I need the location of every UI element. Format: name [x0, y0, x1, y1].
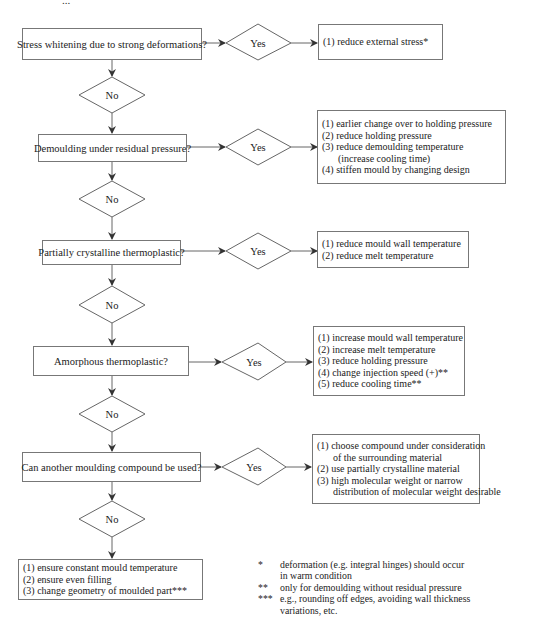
action-item: (1) increase mould wall temperature: [318, 332, 460, 344]
question-text: Stress whitening due to strong deformati…: [17, 39, 207, 50]
decision-yes-5: Yes: [246, 462, 261, 473]
question-text: Demoulding under residual pressure?: [34, 143, 191, 154]
final-action-item: (1) ensure constant mould temperature: [23, 562, 198, 574]
action-item: (1) earlier change over to holding press…: [322, 118, 501, 130]
action-item: (3) high molecular weight or narrow: [317, 475, 475, 487]
decision-no-3: No: [106, 300, 119, 311]
footnote-text: variations, etc.: [280, 605, 337, 616]
action-item-continuation: of the surrounding material: [317, 452, 475, 464]
decision-no-2: No: [106, 194, 119, 205]
action-item: (3) reduce demoulding temperature: [322, 141, 501, 153]
clipped-heading-fragment: ...: [62, 0, 70, 6]
footnote-mark: **: [258, 582, 280, 593]
action-item: (2) increase melt temperature: [318, 344, 460, 356]
question-another-compound: Can another moulding compound be used?: [22, 452, 201, 482]
footnote-text: in warm condition: [280, 570, 352, 581]
actions-another-compound: (1) choose compound under consideration …: [312, 434, 480, 504]
decision-yes-1: Yes: [250, 38, 265, 49]
footnote-1: * deformation (e.g. integral hinges) sho…: [258, 559, 470, 582]
action-item: (4) stiffen mould by changing design: [322, 164, 501, 176]
decision-yes-3: Yes: [250, 246, 265, 257]
question-demoulding-residual-pressure: Demoulding under residual pressure?: [38, 134, 187, 162]
footnote-2: ** only for demoulding without residual …: [258, 582, 470, 593]
action-item-continuation: distribution of molecular weight desirab…: [317, 486, 475, 498]
action-item-continuation: (increase cooling time): [322, 153, 501, 165]
question-amorphous: Amorphous thermoplastic?: [33, 346, 189, 376]
actions-demoulding: (1) earlier change over to holding press…: [317, 110, 506, 184]
action-item: (1) choose compound under consideration: [317, 440, 475, 452]
actions-partially-crystalline: (1) reduce mould wall temperature (2) re…: [317, 231, 469, 268]
decision-no-1: No: [106, 90, 119, 101]
final-action-item: (3) change geometry of moulded part***: [23, 585, 198, 597]
decision-yes-2: Yes: [250, 142, 265, 153]
question-text: Amorphous thermoplastic?: [54, 356, 168, 367]
footnote-mark: *: [258, 559, 280, 582]
footnote-3: *** e.g., rounding off edges, avoiding w…: [258, 593, 470, 616]
decision-no-4: No: [106, 409, 119, 420]
action-item: (3) reduce holding pressure: [318, 355, 460, 367]
footnote-text: e.g., rounding off edges, avoiding wall …: [280, 593, 470, 604]
question-stress-whitening: Stress whitening due to strong deformati…: [22, 28, 202, 60]
final-actions-box: (1) ensure constant mould temperature (2…: [18, 559, 203, 600]
action-item: (2) reduce holding pressure: [322, 130, 501, 142]
footnote-text: only for demoulding without residual pre…: [280, 582, 461, 593]
footnotes: * deformation (e.g. integral hinges) sho…: [258, 559, 470, 616]
action-item: (1) reduce external stress*: [323, 36, 438, 48]
action-item: (4) change injection speed (+)**: [318, 367, 460, 379]
action-item: (1) reduce mould wall temperature: [322, 238, 464, 250]
decision-no-5: No: [106, 514, 119, 525]
question-text: Partially crystalline thermoplastic?: [38, 247, 184, 258]
flowchart-connectors: [0, 0, 533, 631]
footnote-mark: ***: [258, 593, 280, 616]
actions-stress-whitening: (1) reduce external stress*: [318, 24, 443, 60]
action-item: (5) reduce cooling time**: [318, 378, 460, 390]
action-item: (2) reduce melt temperature: [322, 250, 464, 262]
question-partially-crystalline: Partially crystalline thermoplastic?: [42, 240, 181, 265]
footnote-text: deformation (e.g. integral hinges) shoul…: [280, 559, 464, 570]
action-item: (2) use partially crystalline material: [317, 463, 475, 475]
question-text: Can another moulding compound be used?: [22, 462, 202, 473]
decision-yes-4: Yes: [246, 357, 261, 368]
actions-amorphous: (1) increase mould wall temperature (2) …: [313, 326, 465, 396]
final-action-item: (2) ensure even filling: [23, 574, 198, 586]
